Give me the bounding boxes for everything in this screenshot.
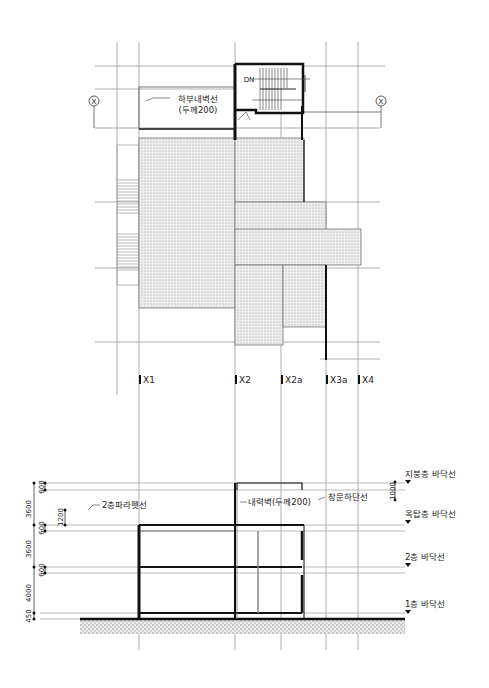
- grid-label-x3a: X3a: [330, 375, 347, 385]
- grid-label-x2: X2: [239, 375, 251, 385]
- grid-label-x1: X1: [143, 375, 155, 385]
- dim-1200: 1200: [57, 508, 65, 526]
- dim-3600-upper: 3600: [25, 500, 33, 518]
- level-roof: 지붕층 바닥선: [405, 469, 456, 479]
- roof-hatch: [139, 138, 361, 345]
- grid-marker-right-label: X: [379, 98, 384, 106]
- bearing-wall-note: 내력벽(두께200): [248, 497, 311, 507]
- grid-marker-left-label: X: [92, 98, 97, 106]
- window-sill-note: 창문하단선: [328, 492, 368, 502]
- section-grid: [139, 395, 358, 650]
- ground-hatch: [80, 619, 405, 634]
- side-stair: [117, 145, 139, 285]
- level-markers: 지붕층 바닥선 옥탑층 바닥선 2층 바닥선 1층 바닥선: [405, 469, 456, 609]
- grid-label-x4: X4: [362, 375, 374, 385]
- dim-600-b: 600: [38, 521, 46, 534]
- grid-labels: X1 X2 X2a X3a X4: [139, 375, 374, 385]
- parapet-note: 2층파라펫선: [102, 500, 147, 510]
- dim-450: 450: [25, 609, 33, 622]
- wall-note-line2: (두께200): [179, 105, 218, 115]
- stair-tower: DN: [235, 64, 310, 140]
- dimension-chain: [34, 483, 65, 619]
- level-second: 2층 바닥선: [405, 552, 445, 562]
- stair-direction-label: DN: [244, 76, 255, 84]
- level-first: 1층 바닥선: [405, 599, 445, 609]
- architectural-drawing: X X 하부내벽선 (두: [0, 0, 489, 688]
- dim-1000: 1000: [389, 482, 397, 500]
- grid-label-x2a: X2a: [285, 375, 302, 385]
- dim-600-a: 600: [38, 480, 46, 493]
- dim-600-c: 600: [38, 563, 46, 576]
- dim-4000: 4000: [25, 584, 33, 602]
- level-penthouse: 옥탑층 바닥선: [405, 509, 456, 519]
- wall-note-line1: 하부내벽선: [178, 94, 218, 104]
- dim-3600-lower: 3600: [25, 540, 33, 558]
